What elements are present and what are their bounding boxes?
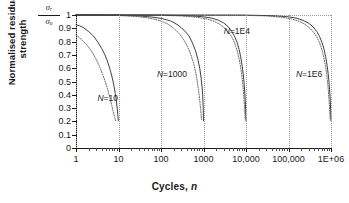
y-tick [72,82,77,83]
gridline-x-100,000 [289,15,290,148]
x-tick-minor [244,148,245,151]
gridline-x-1000 [204,15,205,148]
x-tick-label-10: 10 [113,155,123,164]
y-tick-label-0.9: 0.9 [58,24,71,33]
y-axis-symbol: σr σu [37,3,61,28]
x-tick-minor [309,148,310,151]
x-tick [331,148,332,152]
chart-figure: Normalised residual strength σr σu 00.10… [0,0,349,203]
x-tick [204,148,205,152]
x-tick-minor [154,148,155,151]
x-tick-minor [174,148,175,151]
x-tick-minor [233,148,234,151]
y-tick-label-0.7: 0.7 [58,50,71,59]
x-tick-minor [191,148,192,151]
x-tick-minor [324,148,325,151]
x-tick-minor [224,148,225,151]
y-axis-title-line-2: strength [17,20,28,59]
x-tick-label-1E+06: 1E+06 [318,155,344,164]
x-tick-label-1: 1 [73,155,78,164]
x-tick-label-10,000: 10,000 [232,155,260,164]
x-tick-minor [279,148,280,151]
x-tick-label-1000: 1000 [193,155,213,164]
x-tick-minor [239,148,240,151]
x-tick-minor [102,148,103,151]
curve-annotation-n-1e6: N=1E6 [296,70,322,79]
x-tick-minor [287,148,288,151]
x-tick-minor [329,148,330,151]
gridline-x-1E+06 [331,15,332,148]
x-tick-minor [152,148,153,151]
x-tick-minor [202,148,203,151]
x-tick-minor [157,148,158,151]
x-tick-minor [187,148,188,151]
y-axis-title: Normalised residual strength [6,0,28,104]
x-tick-minor [284,148,285,151]
x-tick [246,148,247,152]
y-axis-symbol-denominator: σu [37,17,61,29]
curve-n-10-dotted [76,36,116,121]
y-tick [72,55,77,56]
x-tick-minor [259,148,260,151]
x-tick-minor [144,148,145,151]
x-tick-minor [327,148,328,151]
x-tick-minor [181,148,182,151]
x-tick-minor [276,148,277,151]
y-tick-label-0.6: 0.6 [58,64,71,73]
y-tick-label-0.5: 0.5 [58,77,71,86]
x-tick-minor [131,148,132,151]
x-tick [119,148,120,152]
y-tick [72,135,77,136]
x-tick [161,148,162,152]
x-axis-title: Cycles, n [0,181,349,192]
x-tick-minor [229,148,230,151]
y-tick [72,15,77,16]
y-tick [72,108,77,109]
x-tick-minor [237,148,238,151]
curve-n-1000-solid [76,15,203,121]
x-tick-minor [117,148,118,151]
x-tick-minor [109,148,110,151]
gridline-x-10 [119,15,120,148]
y-tick-label-0.3: 0.3 [58,104,71,113]
x-tick-minor [106,148,107,151]
x-tick-minor [266,148,267,151]
x-tick-minor [318,148,319,151]
x-tick-label-100,000: 100,000 [272,155,305,164]
y-axis-symbol-numerator: σr [37,3,61,15]
x-tick-minor [112,148,113,151]
y-tick [72,95,77,96]
curve-annotation-n-1e4: N=1E4 [224,27,250,36]
x-tick [289,148,290,152]
y-tick [72,121,77,122]
y-tick [72,68,77,69]
x-tick-minor [139,148,140,151]
curve-n-1000-dotted [76,15,201,119]
y-tick-label-0.1: 0.1 [58,130,71,139]
y-tick-label-0.4: 0.4 [58,90,71,99]
y-tick [72,28,77,29]
x-tick-minor [96,148,97,151]
x-tick-minor [148,148,149,151]
x-tick-minor [272,148,273,151]
y-tick-label-0.2: 0.2 [58,117,71,126]
x-tick-minor [216,148,217,151]
y-axis-title-line-1: Normalised residual [6,0,17,85]
y-tick-label-0: 0 [66,144,71,153]
x-tick-minor [89,148,90,151]
x-tick-label-100: 100 [153,155,168,164]
x-tick [76,148,77,152]
x-tick-minor [282,148,283,151]
y-tick-label-1: 1 [66,11,71,20]
x-tick-minor [197,148,198,151]
x-tick-minor [314,148,315,151]
curve-annotation-n-10: N=10 [97,94,118,103]
x-tick-minor [159,148,160,151]
x-tick-minor [242,148,243,151]
x-tick-minor [194,148,195,151]
x-tick-minor [114,148,115,151]
gridline-x-100 [161,15,162,148]
curve-annotation-n-1000: N=1000 [157,70,187,79]
x-tick-minor [322,148,323,151]
x-tick-minor [301,148,302,151]
